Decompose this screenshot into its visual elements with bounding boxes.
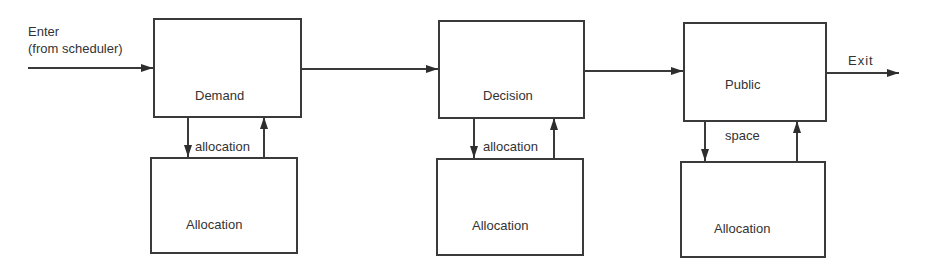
recovery-line1: Allocation bbox=[714, 220, 788, 237]
recovery-line1: Allocation bbox=[472, 217, 546, 234]
stage-title-line2: allocation bbox=[483, 138, 538, 155]
recovery-box-1: Allocation recovery (as required) bbox=[150, 157, 298, 254]
entry-label: Enter (from scheduler) bbox=[28, 23, 123, 57]
recovery-line1: Allocation bbox=[186, 216, 260, 233]
entry-label-line1: Enter bbox=[28, 23, 123, 40]
stage-title-line1: Decision bbox=[483, 87, 538, 104]
stage-title-line1: Public bbox=[725, 76, 780, 93]
stage-box-decision-allocation: Decision allocation bbox=[438, 20, 585, 119]
exit-label: Exit bbox=[848, 52, 874, 69]
flow-diagram: Enter (from scheduler) Exit Demand alloc… bbox=[0, 0, 925, 267]
stage-box-public-space-allocation: Public space allocation bbox=[683, 22, 827, 122]
stage-title-line2: space bbox=[725, 127, 780, 144]
stage-box-demand-allocation: Demand allocation bbox=[153, 18, 302, 118]
recovery-box-2: Allocation recovery (as required) bbox=[436, 158, 584, 256]
recovery-box-3: Allocation recovery (as required) bbox=[680, 161, 826, 258]
stage-title-line2: allocation bbox=[195, 138, 250, 155]
stage-title-line1: Demand bbox=[195, 87, 250, 104]
entry-label-line2: (from scheduler) bbox=[28, 40, 123, 57]
